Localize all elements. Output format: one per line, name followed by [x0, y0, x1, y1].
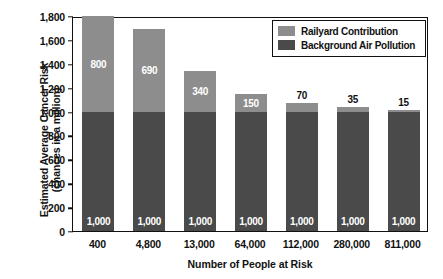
- x-axis-title: Number of People at Risk: [72, 258, 428, 270]
- bar-value-label-railyard: 35: [337, 94, 369, 105]
- chart-figure: Estimated Average Cancer Risk (chances i…: [0, 0, 443, 279]
- y-tick-label: 200: [21, 202, 65, 214]
- bar-value-label-background: 1,000: [235, 216, 267, 227]
- y-tick-label: 800: [21, 130, 65, 142]
- legend-item: Railyard Contribution: [278, 24, 421, 38]
- bar-value-label-background: 1,000: [184, 216, 216, 227]
- bar-value-label-background: 1,000: [388, 216, 420, 227]
- y-tick-label: 0: [21, 226, 65, 238]
- legend-label: Background Air Pollution: [301, 40, 415, 51]
- bar-group[interactable]: 1,000800: [82, 16, 114, 231]
- bar-group[interactable]: 1,000150: [235, 16, 267, 231]
- legend-swatch: [278, 26, 295, 36]
- bar-segment-background-air-pollution[interactable]: [235, 112, 267, 231]
- bar-value-label-railyard: 690: [133, 65, 165, 76]
- bar-value-label-background: 1,000: [337, 216, 369, 227]
- y-tick-label: 1,400: [21, 59, 65, 71]
- bar-segment-background-air-pollution[interactable]: [388, 112, 420, 231]
- bar-segment-background-air-pollution[interactable]: [184, 112, 216, 231]
- bar-value-label-railyard: 15: [388, 97, 420, 108]
- bar-value-label-railyard: 150: [235, 98, 267, 109]
- x-tick-label: 811,000: [367, 238, 439, 250]
- bar-value-label-background: 1,000: [286, 216, 318, 227]
- legend-label: Railyard Contribution: [301, 26, 398, 37]
- y-tick-label: 600: [21, 154, 65, 166]
- bar-segment-background-air-pollution[interactable]: [337, 112, 369, 231]
- y-tick-label: 1,600: [21, 35, 65, 47]
- y-tick-label: 400: [21, 178, 65, 190]
- bar-segment-railyard-contribution[interactable]: [337, 107, 369, 111]
- y-tick-label: 1,000: [21, 107, 65, 119]
- legend-item: Background Air Pollution: [278, 38, 421, 52]
- bar-value-label-railyard: 800: [82, 59, 114, 70]
- bar-segment-railyard-contribution[interactable]: [388, 110, 420, 112]
- bar-segment-background-air-pollution[interactable]: [133, 112, 165, 231]
- bar-group[interactable]: 1,000340: [184, 16, 216, 231]
- y-tick-label: 1,200: [21, 83, 65, 95]
- legend-swatch: [278, 40, 295, 50]
- chart-legend: Railyard ContributionBackground Air Poll…: [272, 20, 426, 57]
- bar-group[interactable]: 1,000690: [133, 16, 165, 231]
- bar-segment-railyard-contribution[interactable]: [286, 103, 318, 111]
- bar-value-label-railyard: 340: [184, 86, 216, 97]
- bar-value-label-background: 1,000: [82, 216, 114, 227]
- bar-value-label-railyard: 70: [286, 90, 318, 101]
- bar-segment-background-air-pollution[interactable]: [286, 112, 318, 231]
- bar-segment-background-air-pollution[interactable]: [82, 112, 114, 231]
- y-tick-label: 1,800: [21, 11, 65, 23]
- bar-value-label-background: 1,000: [133, 216, 165, 227]
